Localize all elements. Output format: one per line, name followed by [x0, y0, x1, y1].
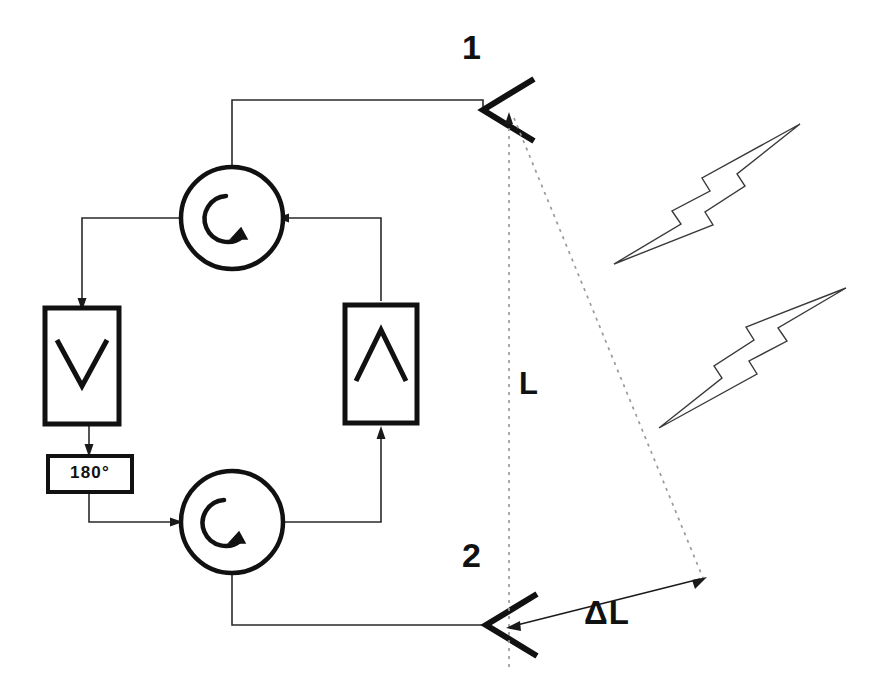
circulator-top[interactable] [181, 167, 283, 269]
circulator-bottom-body [181, 471, 283, 573]
circulator-top-body [181, 167, 283, 269]
baseline-length-label: L [519, 368, 538, 399]
lightning-bolt-upper-icon [614, 124, 800, 264]
lightning-bolt-lower-icon [659, 288, 846, 428]
amplifier-left[interactable] [45, 308, 119, 424]
arrowhead-into-right-amp [377, 426, 386, 439]
antenna-1-label: 1 [462, 30, 481, 64]
circulator-bottom[interactable] [181, 471, 283, 573]
baseline-top-arrowhead [505, 112, 513, 124]
phase-shifter-label: 180° [52, 464, 128, 481]
waveguide-network [78, 100, 487, 625]
feed-line-antenna1 [232, 100, 483, 175]
amplifier-left-box [45, 308, 119, 424]
delta-l-arrowhead-right [692, 577, 707, 589]
antenna-block-diagram: 1 2 L ΔL 180° [0, 0, 886, 681]
antenna-1[interactable] [483, 79, 534, 141]
antenna-2-horn-icon [486, 594, 537, 656]
link-right-amp-to-topcirc [283, 218, 381, 301]
amplifier-right[interactable] [345, 305, 417, 423]
diagram-canvas [0, 0, 886, 681]
antenna-2[interactable] [486, 594, 537, 656]
path-difference-label: ΔL [584, 596, 630, 629]
feed-line-antenna2 [232, 566, 486, 625]
rf-waves [614, 124, 846, 428]
antenna-1-horn-icon [483, 79, 534, 141]
link-topcirc-to-left-amp [82, 218, 189, 304]
link-bottomcirc-to-right-amp [283, 433, 381, 522]
amplifier-right-box [345, 305, 417, 423]
wavefront-reference-line [514, 118, 703, 578]
antenna-2-label: 2 [462, 538, 481, 572]
link-phase-shifter-to-bottomcirc [89, 494, 176, 522]
